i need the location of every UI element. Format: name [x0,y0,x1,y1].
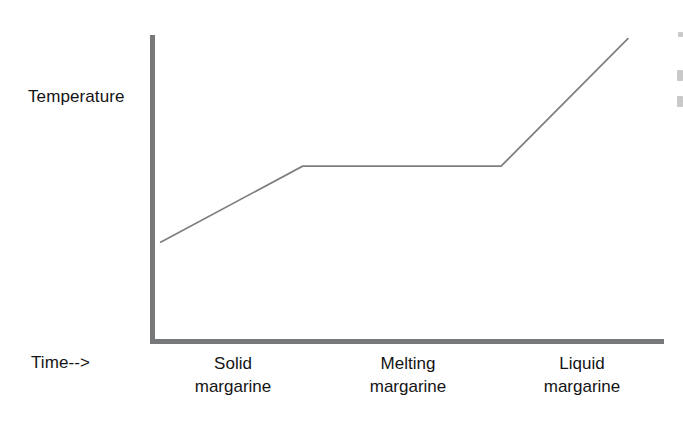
phase-label-liquid: Liquid margarine [492,352,672,398]
phase-label-melting-line1: Melting [318,352,498,375]
phase-label-melting-line2: margarine [318,375,498,398]
phase-label-liquid-line1: Liquid [492,352,672,375]
phase-label-melting: Melting margarine [318,352,498,398]
x-axis-line [150,339,664,344]
y-axis-label: Temperature [28,87,125,107]
phase-label-solid-line1: Solid [143,352,323,375]
heating-curve-figure: Temperature Time--> Solid margarine Melt… [0,0,683,431]
y-axis-line [150,35,155,344]
x-axis-label: Time--> [31,353,90,373]
scan-fragment-middle [677,70,683,81]
phase-label-solid-line2: margarine [143,375,323,398]
temperature-curve-path [160,38,628,242]
phase-label-liquid-line2: margarine [492,375,672,398]
phase-label-solid: Solid margarine [143,352,323,398]
scan-edge-fragments [674,28,683,128]
scan-fragment-top [678,32,683,37]
scan-fragment-bottom [677,96,683,107]
